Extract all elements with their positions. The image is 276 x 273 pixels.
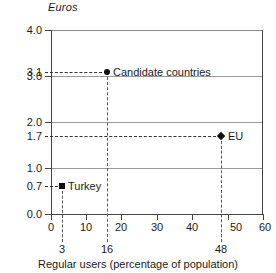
x-tick-label-20: 20 [106,221,136,233]
x-value-label-16: 16 [92,243,122,255]
leader-h-candidate-countries [45,72,107,73]
leader-h-eu [45,136,221,137]
x-tick-label-30: 30 [142,221,172,233]
y-tick-label-0: 0.0 [0,208,42,220]
x-tick-60 [263,214,264,220]
data-label-eu: EU [228,130,243,142]
y-tick-4 [45,30,51,31]
x-value-label-3: 3 [47,243,77,255]
y-tick-label-4: 4.0 [0,24,42,36]
data-point-candidate-countries[interactable] [104,69,110,75]
leader-v-turkey [62,186,63,242]
x-value-label-48: 48 [206,243,236,255]
y-tick-1 [45,168,51,169]
x-tick-50 [228,214,229,220]
x-tick-30 [157,214,158,220]
x-tick-label-40: 40 [177,221,207,233]
data-label-turkey: Turkey [68,180,101,192]
y-value-label-1-7: 1.7 [0,130,42,142]
x-tick-label-50: 50 [221,221,251,233]
x-tick-label-60: 60 [250,221,276,233]
x-tick-10 [86,214,87,220]
y-tick-2 [45,122,51,123]
x-tick-label-0: 0 [36,221,66,233]
x-tick-0 [51,214,52,220]
x-tick-40 [192,214,193,220]
x-axis-title: Regular users (percentage of population) [0,258,276,270]
chart-figure: Euros 4.0 3.0 2.0 1.0 0.0 3.1 1.7 0.7 0 … [0,0,276,273]
data-point-turkey[interactable] [59,183,65,189]
y-tick-label-2: 2.0 [0,116,42,128]
y-tick-label-1: 1.0 [0,162,42,174]
y-value-label-3-1: 3.1 [0,66,42,78]
data-label-candidate-countries: Candidate countries [113,66,211,78]
x-tick-label-10: 10 [71,221,101,233]
x-tick-20 [121,214,122,220]
leader-v-candidate-countries [107,72,108,242]
y-axis-title: Euros [48,1,78,13]
y-tick-3 [45,76,51,77]
y-value-label-0-7: 0.7 [0,180,42,192]
